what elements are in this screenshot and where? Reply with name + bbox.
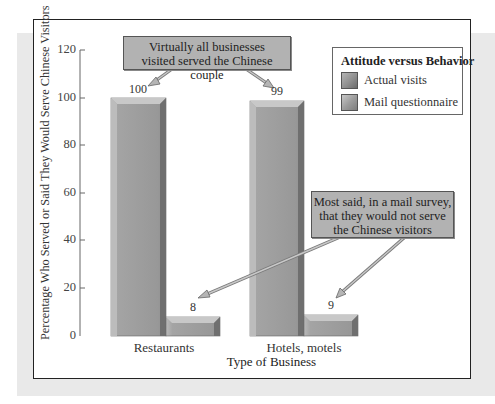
- bar-hotels-actual: [250, 101, 304, 336]
- y-axis-label: Percentage Who Served or Said They Would…: [38, 6, 53, 340]
- x-axis-label-text: Type of Business: [227, 354, 316, 369]
- value-hotels-mail: 9: [311, 298, 351, 313]
- bar-restaurants-mail: [166, 317, 220, 336]
- callout-bottom-line-2: that they would not serve: [312, 209, 453, 223]
- value-restaurants-actual: 100: [118, 82, 158, 97]
- legend-item-mail-questionnaire: Mail questionnaire: [341, 94, 458, 111]
- bar-hotels-mail: [304, 315, 358, 336]
- value-hotels-actual: 99: [257, 84, 297, 99]
- bar-restaurants-actual: [111, 98, 166, 336]
- legend: Attitude versus Behavior Actual visits M…: [332, 47, 463, 115]
- callout-bottom-line-1: Most said, in a mail survey,: [312, 195, 453, 209]
- legend-item-actual-visits: Actual visits: [341, 72, 427, 89]
- callout-bottom: Most said, in a mail survey, that they w…: [311, 191, 454, 238]
- legend-swatch-mail-icon: [341, 94, 358, 111]
- callout-top-line-2: visited served the Chinese couple: [124, 54, 290, 82]
- legend-swatch-actual-icon: [341, 72, 358, 89]
- value-restaurants-mail: 8: [173, 300, 213, 315]
- callout-top: Virtually all businesses visited served …: [123, 36, 291, 70]
- y-axis: [80, 50, 85, 336]
- callout-top-line-1: Virtually all businesses: [124, 40, 290, 54]
- legend-title: Attitude versus Behavior: [341, 54, 474, 69]
- legend-label-mail: Mail questionnaire: [364, 95, 458, 110]
- callout-bottom-line-3: the Chinese visitors: [312, 223, 453, 237]
- legend-label-actual: Actual visits: [364, 73, 427, 88]
- x-axis-label: Type of Business: [0, 354, 495, 370]
